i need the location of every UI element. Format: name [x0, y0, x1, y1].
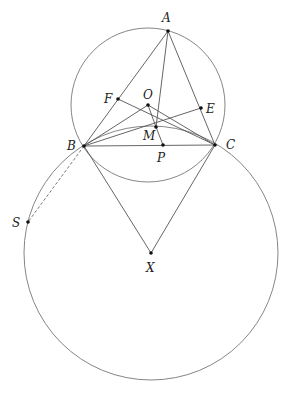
- segment-FC: [118, 99, 215, 145]
- segment-OC: [148, 105, 215, 145]
- point-C: [213, 143, 217, 147]
- point-F: [116, 97, 120, 101]
- label-A: A: [161, 11, 171, 25]
- label-B: B: [66, 139, 76, 153]
- point-P: [161, 143, 165, 147]
- label-P: P: [156, 151, 166, 165]
- segments: [28, 31, 215, 253]
- label-X: X: [145, 261, 155, 275]
- label-O: O: [143, 88, 153, 102]
- point-E: [199, 106, 203, 110]
- segment-BX: [84, 146, 151, 253]
- circles: [24, 28, 278, 380]
- point-X: [149, 251, 153, 255]
- point-O: [146, 103, 150, 107]
- label-S: S: [12, 216, 20, 230]
- point-S: [26, 220, 30, 224]
- point-B: [82, 144, 86, 148]
- label-C: C: [226, 138, 235, 152]
- label-F: F: [103, 92, 113, 106]
- label-M: M: [142, 129, 156, 143]
- labels: ABCOFEMPXS: [12, 11, 235, 275]
- label-E: E: [205, 102, 215, 116]
- segment-BC: [84, 145, 215, 146]
- points: [26, 29, 217, 255]
- dashed-segment-BS: [28, 146, 84, 222]
- point-A: [166, 29, 170, 33]
- segment-BO: [84, 105, 148, 146]
- geometry-diagram: ABCOFEMPXS: [0, 0, 291, 397]
- segment-MP: [156, 127, 163, 145]
